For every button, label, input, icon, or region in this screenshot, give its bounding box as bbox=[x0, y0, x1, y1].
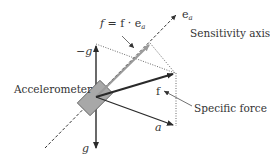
neg-gravity-label: −g bbox=[76, 45, 92, 58]
accelerometer-vector-diagram: f = f · ea ea Sensitivity axis −g g Acce… bbox=[0, 0, 270, 163]
specific-force-symbol-label: f bbox=[156, 85, 161, 98]
gravity-label: g bbox=[82, 142, 89, 155]
specific-force-pointer-arrow bbox=[164, 91, 192, 106]
sensitivity-axis-label: Sensitivity axis bbox=[190, 27, 270, 39]
specific-force-label: Specific force bbox=[194, 102, 267, 114]
formula-pointer-arrow bbox=[122, 36, 134, 48]
accelerometer-label: Accelerometer bbox=[13, 83, 93, 95]
acceleration-label: a bbox=[155, 121, 162, 134]
projection-formula-label: f = f · ea bbox=[99, 17, 146, 31]
axis-unit-label: ea bbox=[182, 8, 193, 22]
